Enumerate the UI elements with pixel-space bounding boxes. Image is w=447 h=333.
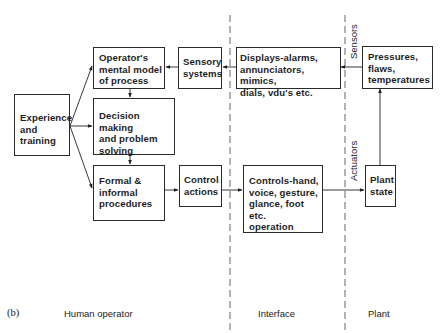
sensory-systems-text: Sensory systems [183,56,221,79]
decision-making-text: Decision making and problem solving [99,110,174,156]
procedures-box: Formal & informal procedures [93,165,165,221]
sensory-systems-box: Sensory systems [178,47,222,89]
experience-training-box: Experience and training [14,94,70,156]
pressures-box: Pressures, flaws, temperatures [362,46,433,89]
controls-box: Controls-hand, voice, gesture, glance, f… [243,165,323,233]
section-label-interface: Interface [258,308,295,319]
mental-model-text: Operator's mental model of process [99,52,164,87]
actuators-label: Actuators [348,141,359,181]
controls-text: Controls-hand, voice, gesture, glance, f… [249,175,322,233]
section-label-human-operator: Human operator [64,308,133,319]
arrow-experience-to-mental-model [70,66,92,126]
experience-training-text: Experience and training [20,112,69,147]
pressures-text: Pressures, flaws, temperatures [368,51,432,86]
decision-making-box: Decision making and problem solving [93,98,175,155]
displays-box: Displays-alarms, annunciators, mimics, d… [236,47,341,89]
section-label-plant: Plant [368,308,390,319]
sensors-label: Sensors [348,24,359,59]
mental-model-box: Operator's mental model of process [93,47,165,89]
arrow-experience-to-procedures [70,126,92,188]
displays-text: Displays-alarms, annunciators, mimics, d… [240,52,340,98]
procedures-text: Formal & informal procedures [99,175,164,210]
plant-state-box: Plant state [365,165,396,207]
control-actions-box: Control actions [179,165,222,207]
control-actions-text: Control actions [184,174,221,197]
plant-state-text: Plant state [370,174,395,197]
figure-label: (b) [7,307,19,318]
